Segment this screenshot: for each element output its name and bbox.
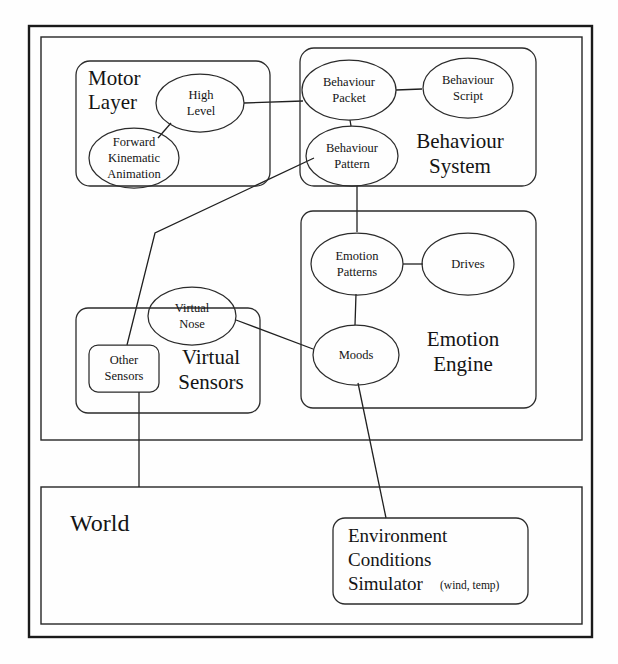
node-ecs-label-line2: Conditions — [348, 549, 431, 570]
connector-behaviour-packet-to-behaviour-pattern — [350, 120, 351, 126]
node-behaviour-script-label-line1: Behaviour — [442, 73, 495, 87]
outer-frame — [29, 26, 592, 637]
connector-high-level-to-behaviour-packet — [244, 101, 303, 103]
module-virtual-sensors-title-line2: Sensors — [178, 370, 243, 394]
node-fka-label-line1: Forward — [113, 135, 156, 149]
node-behaviour-pattern-label-line1: Behaviour — [326, 141, 379, 155]
connector-emotion-patterns-to-moods — [355, 294, 356, 325]
node-fka-label-line2: Kinematic — [108, 151, 161, 165]
node-ecs-note: (wind, temp) — [440, 579, 500, 592]
module-virtual-sensors-title-line1: Virtual — [182, 345, 240, 369]
diagram-root: World Motor Layer High Level Forward — [0, 0, 618, 664]
node-moods-label: Moods — [339, 348, 374, 362]
connector-moods-to-environment-simulator — [358, 383, 386, 518]
node-other-sensors-label-line1: Other — [110, 353, 139, 367]
node-behaviour-packet-label-line2: Packet — [332, 91, 366, 105]
system-architecture-diagram: World Motor Layer High Level Forward — [0, 0, 618, 664]
connector-behaviour-packet-to-behaviour-script — [396, 89, 422, 90]
node-virtual-nose-label-line2: Nose — [179, 317, 205, 331]
module-behaviour-system-title-line1: Behaviour — [416, 129, 503, 153]
node-high-level-label-line2: Level — [187, 104, 216, 118]
module-emotion-engine[interactable] — [301, 211, 536, 408]
world-label: World — [70, 510, 129, 536]
node-drives-label: Drives — [451, 257, 484, 271]
node-behaviour-pattern-label-line2: Pattern — [334, 157, 370, 171]
node-high-level-label-line1: High — [189, 88, 215, 102]
module-emotion-engine-title-line1: Emotion — [427, 327, 500, 351]
module-behaviour-system-title-line2: System — [429, 154, 491, 178]
node-ecs-label-line1: Environment — [348, 525, 448, 546]
node-emotion-patterns-label-line1: Emotion — [335, 249, 379, 263]
node-other-sensors-label-line2: Sensors — [105, 369, 144, 383]
node-behaviour-script-label-line2: Script — [453, 89, 483, 103]
node-ecs-label-line3: Simulator — [348, 573, 424, 594]
node-virtual-nose-label-line1: Virtual — [175, 301, 210, 315]
module-emotion-engine-title-line2: Engine — [433, 352, 492, 376]
node-fka-label-line3: Animation — [107, 167, 161, 181]
module-motor-layer-title-line2: Layer — [88, 90, 137, 114]
node-emotion-patterns-label-line2: Patterns — [337, 265, 377, 279]
module-motor-layer-title-line1: Motor — [88, 66, 141, 90]
node-behaviour-packet-label-line1: Behaviour — [323, 75, 376, 89]
